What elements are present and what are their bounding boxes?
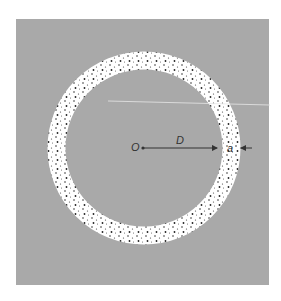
center-label: O: [131, 141, 140, 153]
radius-label: D: [176, 134, 184, 146]
ring-diagram: [0, 0, 281, 301]
thickness-label: a: [227, 142, 233, 154]
